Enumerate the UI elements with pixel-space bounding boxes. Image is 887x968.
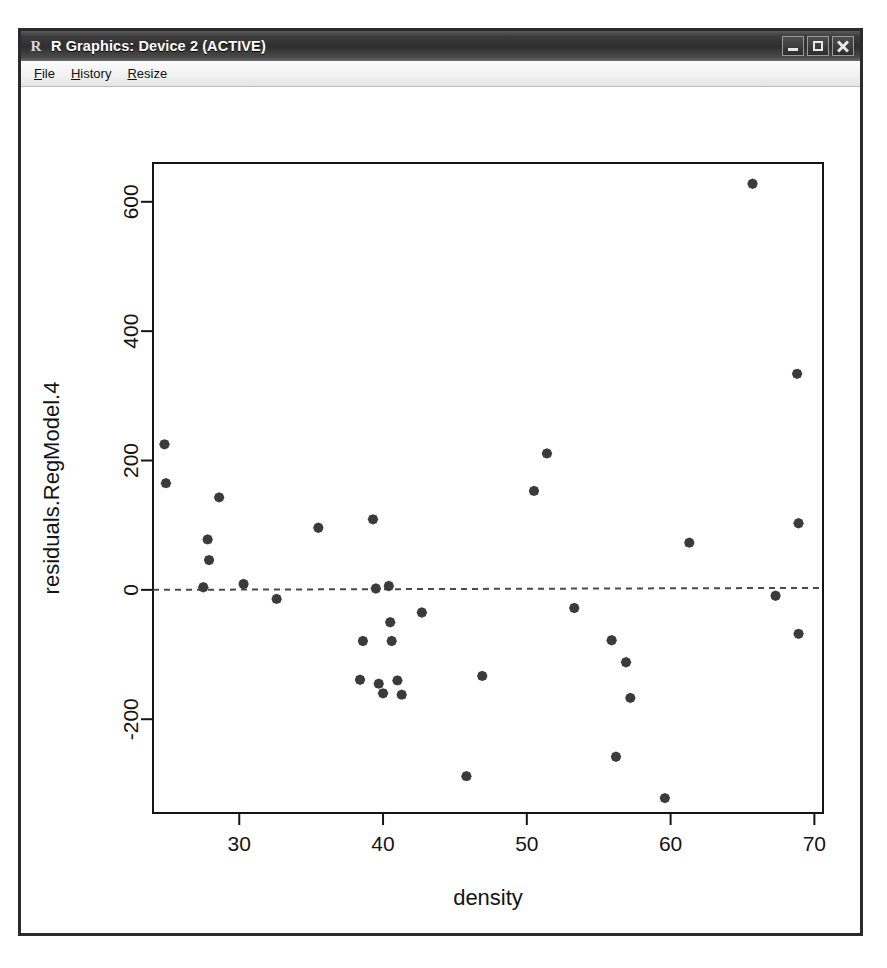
data-point: [371, 583, 381, 593]
data-point: [271, 594, 281, 604]
minimize-button[interactable]: [782, 36, 804, 56]
y-axis-label: residuals.RegModel.4: [39, 382, 64, 595]
data-point: [477, 671, 487, 681]
menu-item-history[interactable]: History: [66, 64, 122, 83]
menu-item-resize-rest: esize: [137, 66, 167, 81]
data-point: [747, 179, 757, 189]
data-point: [368, 514, 378, 524]
data-point: [202, 534, 212, 544]
data-point: [385, 617, 395, 627]
y-tick-label: 600: [120, 184, 143, 219]
data-point: [384, 581, 394, 591]
y-tick-label: -200: [120, 698, 143, 740]
data-point: [611, 752, 621, 762]
data-point: [358, 636, 368, 646]
graphics-canvas: -2000200400600 3040506070 density residu…: [21, 87, 860, 933]
data-point: [374, 678, 384, 688]
x-axis-label: density: [453, 885, 523, 910]
data-point: [621, 657, 631, 667]
data-point: [238, 579, 248, 589]
y-tick-label: 400: [120, 314, 143, 349]
data-point: [204, 555, 214, 565]
data-point: [198, 582, 208, 592]
menu-item-file[interactable]: File: [29, 64, 66, 83]
x-tick-label: 40: [371, 832, 394, 855]
data-point: [606, 635, 616, 645]
data-points: [159, 179, 803, 804]
zero-reference-line: [153, 588, 823, 590]
data-point: [529, 486, 539, 496]
data-point: [397, 689, 407, 699]
data-point: [392, 675, 402, 685]
menu-item-file-rest: ile: [42, 66, 55, 81]
r-logo-icon: R: [27, 37, 45, 55]
data-point: [214, 492, 224, 502]
data-point: [660, 793, 670, 803]
x-tick-label: 70: [803, 832, 826, 855]
y-axis-ticks: -2000200400600: [120, 184, 154, 740]
data-point: [355, 675, 365, 685]
r-graphics-window: R R Graphics: Device 2 (ACTIVE) File His…: [18, 28, 863, 936]
data-point: [625, 693, 635, 703]
data-point: [542, 448, 552, 458]
data-point: [793, 629, 803, 639]
plot-frame: [153, 163, 823, 813]
data-point: [417, 607, 427, 617]
data-point: [684, 537, 694, 547]
y-tick-label: 200: [120, 443, 143, 478]
maximize-button[interactable]: [807, 36, 829, 56]
window-titlebar: R R Graphics: Device 2 (ACTIVE): [21, 31, 860, 61]
x-tick-label: 60: [659, 832, 682, 855]
x-tick-label: 30: [228, 832, 251, 855]
data-point: [386, 636, 396, 646]
data-point: [378, 688, 388, 698]
data-point: [792, 369, 802, 379]
data-point: [569, 603, 579, 613]
data-point: [461, 771, 471, 781]
y-tick-label: 0: [120, 584, 143, 596]
menu-item-resize[interactable]: Resize: [122, 64, 178, 83]
data-point: [793, 518, 803, 528]
x-axis-ticks: 3040506070: [228, 813, 826, 855]
data-point: [161, 478, 171, 488]
menu-item-history-rest: istory: [80, 66, 111, 81]
window-title: R Graphics: Device 2 (ACTIVE): [51, 38, 266, 54]
data-point: [313, 523, 323, 533]
data-point: [159, 439, 169, 449]
x-tick-label: 50: [515, 832, 538, 855]
data-point: [770, 590, 780, 600]
menubar: File History Resize: [21, 61, 860, 87]
screen-root: R R Graphics: Device 2 (ACTIVE) File His…: [0, 0, 887, 968]
close-button[interactable]: [832, 36, 854, 56]
residual-scatter-plot: -2000200400600 3040506070 density residu…: [21, 87, 860, 933]
window-controls: [782, 36, 854, 56]
